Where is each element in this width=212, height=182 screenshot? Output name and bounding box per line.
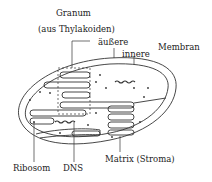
- label-membrane: Membran: [158, 43, 200, 52]
- label-inner: innere: [122, 50, 150, 59]
- inner-membrane: [25, 64, 168, 137]
- label-ribosome: Ribosom: [13, 164, 50, 173]
- dna-squiggle-2: [55, 121, 75, 123]
- label-outer: äußere: [98, 38, 128, 47]
- dna-squiggle-1: [115, 81, 135, 83]
- label-granum: Granum: [56, 9, 91, 18]
- label-matrix: Matrix (Stroma): [105, 155, 175, 164]
- label-granum-sub: (aus Thylakoiden): [38, 25, 115, 34]
- label-dna: DNS: [63, 164, 83, 173]
